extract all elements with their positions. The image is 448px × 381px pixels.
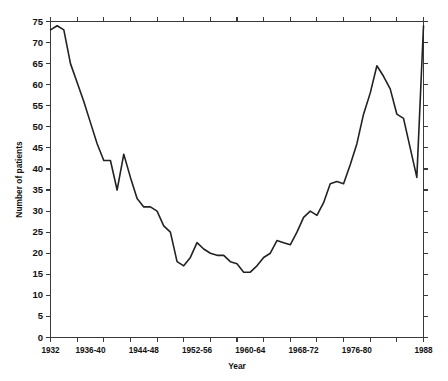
x-tick-label: 1968-72: [289, 346, 319, 355]
y-tick-label: 40: [32, 163, 43, 174]
x-tick-label: 1952-56: [182, 346, 212, 355]
x-tick-label: 1988: [414, 346, 433, 355]
y-tick-label: 50: [32, 121, 43, 132]
y-tick-label: 75: [32, 16, 43, 27]
chart-background: [0, 0, 448, 381]
y-tick-label: 25: [32, 226, 43, 237]
x-tick-label: 1932: [41, 346, 60, 355]
y-tick-label: 10: [32, 289, 43, 300]
y-tick-label: 35: [32, 184, 43, 195]
y-tick-label: 0: [38, 332, 43, 343]
chart-canvas: 051015202530354045505560657075 19321936-…: [0, 0, 448, 381]
y-tick-label: 65: [32, 58, 43, 69]
y-axis-title: Number of patients: [14, 141, 24, 218]
y-tick-label: 60: [32, 79, 43, 90]
y-tick-label: 70: [32, 37, 43, 48]
line-chart: 051015202530354045505560657075 19321936-…: [0, 0, 448, 381]
x-tick-label: 1976-80: [342, 346, 372, 355]
x-tick-label: 1936-40: [75, 346, 105, 355]
y-tick-label: 5: [38, 310, 44, 321]
x-axis-title: Year: [228, 361, 246, 371]
y-tick-label: 15: [32, 268, 43, 279]
x-tick-label: 1960-64: [235, 346, 265, 355]
x-tick-label: 1944-48: [129, 346, 159, 355]
y-tick-label: 30: [32, 205, 43, 216]
y-tick-label: 55: [32, 100, 43, 111]
y-tick-label: 45: [32, 142, 43, 153]
y-tick-label: 20: [32, 247, 43, 258]
